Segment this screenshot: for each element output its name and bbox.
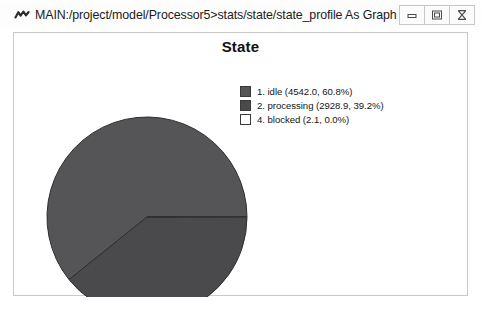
maximize-button[interactable] bbox=[424, 5, 450, 25]
minimize-button[interactable] bbox=[399, 5, 425, 25]
legend-item: 2. processing (2928.9, 39.2%) bbox=[240, 99, 384, 112]
window-controls bbox=[400, 4, 475, 25]
close-button[interactable] bbox=[449, 5, 475, 25]
graph-window: MAIN:/project/model/Processor5>stats/sta… bbox=[0, 1, 481, 296]
window-titlebar[interactable]: MAIN:/project/model/Processor5>stats/sta… bbox=[0, 1, 481, 28]
legend-label: 4. blocked (2.1, 0.0%) bbox=[257, 114, 349, 125]
pie-chart bbox=[14, 33, 469, 297]
maximize-icon bbox=[430, 9, 444, 21]
legend-item: 1. idle (4542.0, 60.8%) bbox=[240, 85, 384, 98]
chart-legend: 1. idle (4542.0, 60.8%)2. processing (29… bbox=[240, 85, 384, 126]
minimize-icon bbox=[405, 10, 419, 20]
legend-label: 2. processing (2928.9, 39.2%) bbox=[257, 100, 384, 111]
legend-swatch bbox=[240, 114, 251, 125]
legend-label: 1. idle (4542.0, 60.8%) bbox=[257, 86, 352, 97]
graph-icon bbox=[14, 7, 30, 23]
window-title: MAIN:/project/model/Processor5>stats/sta… bbox=[35, 8, 397, 22]
legend-swatch bbox=[240, 100, 251, 111]
pie-slices bbox=[47, 117, 247, 297]
legend-swatch bbox=[240, 86, 251, 97]
chart-panel: State 1. idle (4542.0, 60.8%)2. processi… bbox=[13, 32, 468, 296]
close-icon bbox=[455, 9, 469, 21]
legend-item: 4. blocked (2.1, 0.0%) bbox=[240, 113, 384, 126]
